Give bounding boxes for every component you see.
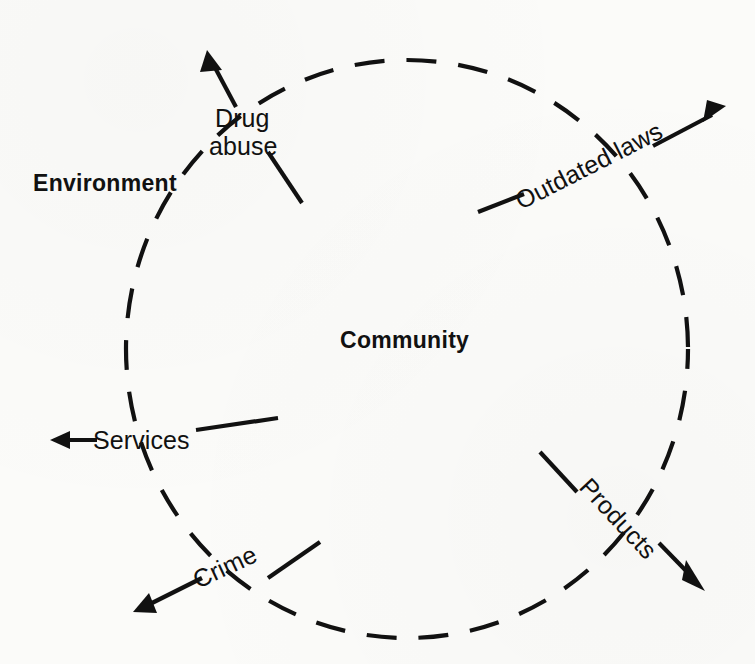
flow-label-drug-abuse-line2: abuse — [209, 132, 278, 160]
region-label-environment: Environment — [33, 170, 177, 196]
flow-label-drug-abuse: Drug abuse — [209, 104, 278, 160]
flow-label-products: Products — [574, 472, 662, 564]
flow-label-outdated-laws: Outdated laws — [511, 116, 667, 214]
flow-label-drug-abuse-line1: Drug — [215, 104, 270, 132]
crime-inner-line — [268, 542, 320, 578]
drug-abuse-arrow-head — [200, 50, 222, 72]
diagram-canvas: Environment Community Drug abuse Outdate… — [0, 0, 755, 664]
community-boundary-diagram: Environment Community Drug abuse Outdate… — [0, 0, 755, 664]
products-inner-line — [540, 452, 577, 492]
services-arrow-head — [50, 431, 70, 449]
outdated-laws-arrow-head — [703, 100, 726, 122]
services-inner-line — [196, 418, 278, 430]
flow-label-crime: Crime — [188, 540, 261, 594]
flow-label-services: Services — [93, 426, 190, 454]
products-arrow-head — [682, 560, 705, 591]
region-label-community: Community — [340, 327, 469, 353]
